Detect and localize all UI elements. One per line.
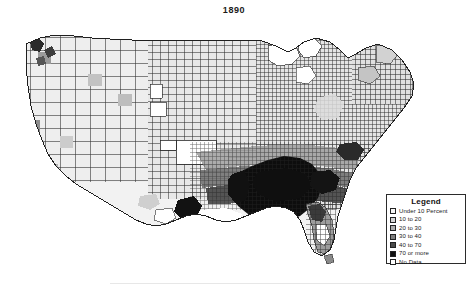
legend-swatch-30-40 [390,234,396,240]
legend-label-30-40: 30 to 40 [399,233,422,240]
legend-item-under-10: Under 10 Percent [390,207,462,215]
legend-swatch-20-30 [390,225,396,231]
legend-item-70-plus: 70 or more [390,250,462,258]
figure-container: 1890 [0,0,468,291]
scan-artifact-line [110,283,400,284]
legend-swatch-10-20 [390,217,396,223]
legend-swatch-no-data [390,259,396,265]
legend-title: Legend [390,197,462,206]
legend-swatch-40-70 [390,242,396,248]
legend-label-no-data: No Data [399,259,422,266]
florida-tip [324,254,334,264]
legend-swatch-under-10 [390,208,396,214]
legend-item-20-30: 20 to 30 [390,224,462,232]
legend-label-under-10: Under 10 Percent [399,208,448,215]
legend-label-70-plus: 70 or more [399,250,429,257]
legend-item-no-data: No Data [390,258,462,266]
legend-item-40-70: 40 to 70 [390,241,462,249]
legend-item-10-20: 10 to 20 [390,216,462,224]
map-legend: Legend Under 10 Percent 10 to 20 20 to 3… [386,194,466,264]
legend-label-20-30: 20 to 30 [399,225,422,232]
legend-item-30-40: 30 to 40 [390,233,462,241]
map-title: 1890 [0,5,468,15]
legend-swatch-70-plus [390,251,396,257]
legend-label-40-70: 40 to 70 [399,242,422,249]
legend-label-10-20: 10 to 20 [399,216,422,223]
